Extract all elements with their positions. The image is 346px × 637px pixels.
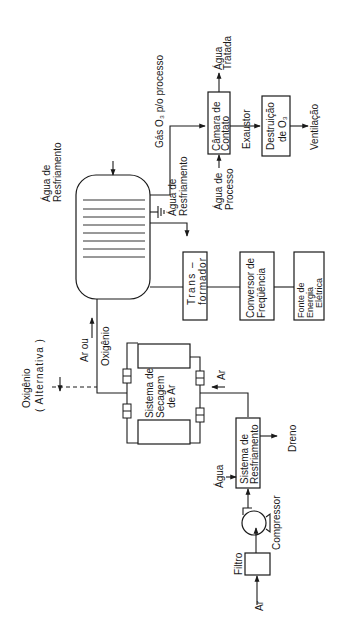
cooling-water-out-arrow <box>150 223 187 236</box>
cooling-system-label-2: Resfriamento <box>249 424 260 484</box>
dryer-column-top <box>138 344 190 368</box>
dry-air-line <box>200 393 248 417</box>
frequency-converter-label-1: Conversor de <box>245 258 256 318</box>
process-water-label-2: Processo <box>224 168 235 210</box>
cooling-water-in-label-1: Água de <box>40 164 52 202</box>
air-or-label: Ar ou <box>79 338 90 362</box>
ozone-generator <box>76 175 150 299</box>
ozone-process-flow-diagram: Água de Resfriamento Gás O₃ p/o processo… <box>0 0 346 637</box>
ozone-destruction-label-1: Destruição <box>265 102 276 150</box>
valve-icon <box>196 371 204 385</box>
oxygen-flow-label: Oxigênio <box>100 326 111 366</box>
air-flow-label: Ar <box>216 369 227 380</box>
ventilation-label: Ventilação <box>309 103 320 150</box>
filter-box <box>245 553 270 575</box>
power-supply-label-3: Elétrica <box>314 278 324 308</box>
air-drying-label-3: de Ar <box>166 384 177 408</box>
transformer-label-1: Trans – <box>186 261 197 305</box>
frequency-converter-label-2: Freqüência <box>256 268 267 318</box>
ground-icon <box>150 206 164 218</box>
water-in-label: Água <box>213 464 225 488</box>
cooling-water-out-label-2: Resfriamento <box>178 156 189 216</box>
exhaust-label: Exaustor <box>241 109 252 149</box>
oxygen-alternative-label-1: Oxigênio <box>21 368 32 408</box>
process-water-label-1: Água de <box>212 172 224 210</box>
valve-icon <box>123 369 131 383</box>
drain-label: Dreno <box>287 424 298 452</box>
filter-label: Filtro <box>233 552 244 575</box>
treated-water-label-2: Tratada <box>222 35 233 70</box>
air-drying-label-1: Sistema de <box>144 368 155 418</box>
cooling-water-in-label-2: Resfriamento <box>52 142 63 202</box>
air-drying-label-2: Secagem <box>155 376 166 418</box>
ozone-destruction-label-2: de O₃ <box>277 116 288 142</box>
oxygen-alternative-label-2: ( Alternativa ) <box>34 338 45 412</box>
dryer-column-bottom <box>138 420 190 444</box>
valve-icon <box>196 408 204 422</box>
transformer-label-2: formador <box>197 257 208 305</box>
cooling-water-out-label-1: Água de <box>166 178 178 216</box>
ozone-gas-label: Gás O₃ p/o processo <box>154 55 165 148</box>
contact-chamber-label-2: Contato <box>220 116 231 151</box>
valve-icon <box>123 404 131 418</box>
air-inlet-label: Ar <box>254 600 265 611</box>
compressor-label: Compressor <box>271 495 282 550</box>
